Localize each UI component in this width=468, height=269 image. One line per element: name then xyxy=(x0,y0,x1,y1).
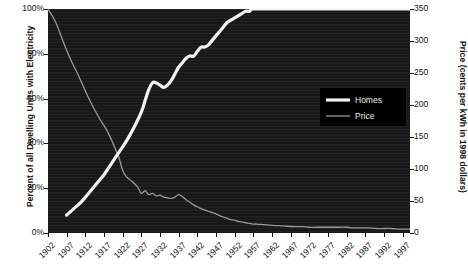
x-axis-tick-mark xyxy=(309,233,310,237)
x-axis-tick-mark xyxy=(365,233,366,237)
y-axis-right-tick-mark xyxy=(410,169,414,170)
x-axis-tick-mark xyxy=(104,233,105,237)
x-axis-tick-mark xyxy=(216,233,217,237)
x-axis-tick-mark xyxy=(328,233,329,237)
legend-swatch-price xyxy=(326,111,350,121)
x-axis-tick-mark xyxy=(160,233,161,237)
y-axis-right-tick-label: 50 xyxy=(414,195,454,205)
legend-item-price: Price xyxy=(326,109,374,123)
y-axis-right-title: Price (cents per kWh in 1998 dollars) xyxy=(458,12,468,222)
x-axis-tick-mark xyxy=(123,233,124,237)
y-axis-right-tick-label: 300 xyxy=(414,35,454,45)
y-axis-left-tick-label: 60% xyxy=(0,93,52,103)
legend-swatch-homes xyxy=(326,95,350,105)
y-axis-right-tick-label: 250 xyxy=(414,67,454,77)
x-axis-tick-mark xyxy=(291,233,292,237)
x-axis-tick-mark xyxy=(235,233,236,237)
y-axis-left-tick-label: 40% xyxy=(0,137,52,147)
y-axis-right-tick-label: 100 xyxy=(414,163,454,173)
y-axis-right-tick-label: 350 xyxy=(414,3,454,13)
y-axis-right-tick-mark xyxy=(410,73,414,74)
x-axis-tick-mark xyxy=(253,233,254,237)
x-axis-tick-mark xyxy=(197,233,198,237)
y-axis-right-tick-mark xyxy=(410,9,414,10)
y-axis-left-tick-label: 20% xyxy=(0,182,52,192)
y-axis-right-tick-mark xyxy=(410,201,414,202)
x-axis-tick-mark xyxy=(384,233,385,237)
y-axis-left-tick-label: 0% xyxy=(0,227,52,237)
x-axis-tick-mark xyxy=(272,233,273,237)
chart-legend: Homes Price xyxy=(320,88,406,126)
y-axis-right-tick-mark xyxy=(410,137,414,138)
legend-item-homes: Homes xyxy=(326,93,382,107)
y-axis-right-tick-label: 150 xyxy=(414,131,454,141)
x-axis-tick-mark xyxy=(141,233,142,237)
y-axis-left-tick-label: 80% xyxy=(0,48,52,58)
x-axis-tick-mark xyxy=(67,233,68,237)
x-axis-tick-mark xyxy=(85,233,86,237)
plot-area: Homes Price xyxy=(48,9,410,233)
y-axis-right-tick-label: 200 xyxy=(414,99,454,109)
y-axis-right-tick-mark xyxy=(410,105,414,106)
legend-label-price: Price xyxy=(355,111,374,121)
x-axis-tick-mark xyxy=(403,233,404,237)
x-axis-tick-mark xyxy=(179,233,180,237)
x-axis-tick-mark xyxy=(48,233,49,237)
y-axis-left-tick-label: 100% xyxy=(0,3,52,13)
y-axis-right-tick-label: 0 xyxy=(414,227,454,237)
legend-label-homes: Homes xyxy=(355,95,382,105)
x-axis-tick-mark xyxy=(347,233,348,237)
y-axis-right-tick-mark xyxy=(410,41,414,42)
y-axis-right-tick-mark xyxy=(410,233,414,234)
